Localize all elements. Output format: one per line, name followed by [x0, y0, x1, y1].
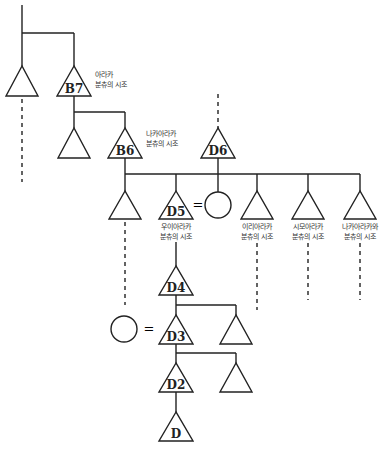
b7-annotation-2: 분츄의 시조 — [95, 80, 128, 89]
male-triangle-left — [6, 66, 38, 96]
male-triangle-iri — [241, 191, 273, 219]
b6-annotation-2: 분츄의 시조 — [146, 139, 179, 148]
iri-annotation-1: 이리아라카 — [242, 222, 273, 231]
sibship-lines — [125, 158, 360, 192]
d2-label: D2 — [167, 378, 186, 392]
male-triangle-d3-child — [220, 363, 252, 392]
node-d2: D2 — [159, 363, 193, 392]
d5-annotation-2: 분츄의 시조 — [160, 232, 193, 241]
male-triangle-d4-child — [220, 315, 252, 344]
d5-label: D5 — [167, 205, 186, 219]
male-triangle-shimo — [292, 191, 324, 219]
node-iri-arakawa: 이리아라카 분츄의 시조 — [241, 191, 274, 310]
d5-annotation-1: 우이아라카 — [161, 222, 192, 231]
male-triangle-b6-child — [109, 191, 141, 219]
node-naka-arakawa: 나카아라카와 분츄의 시조 — [342, 191, 379, 300]
d3-children-lines — [176, 344, 236, 363]
female-circle-d3-spouse — [111, 316, 137, 342]
node-d5: D5 우이아라카 분츄의 시조 — [159, 191, 193, 241]
d4-children-lines — [176, 295, 236, 315]
b6-annotation-1: 나카아라카 — [146, 129, 177, 138]
d4-label: D4 — [167, 281, 186, 295]
shimo-annotation-1: 시모아라카 — [293, 222, 324, 231]
marriage-symbol-d3: = — [144, 321, 155, 336]
female-circle-d5-spouse — [205, 192, 231, 218]
node-d6: D6 — [201, 128, 235, 158]
b7-children-lines — [74, 96, 125, 128]
male-triangle-nakawa — [344, 191, 376, 219]
kinship-diagram: B7 아라카 분츄의 시조 B6 나카아라카 분츄의 시조 D6 — [0, 0, 385, 453]
node-b7: B7 아라카 분츄의 시조 — [57, 66, 128, 96]
top-lineage — [22, 5, 74, 66]
d6-label: D6 — [209, 144, 228, 158]
node-d4: D4 — [159, 266, 193, 295]
marriage-symbol-d5: = — [193, 197, 204, 212]
b7-annotation-1: 아라카 — [95, 70, 114, 79]
d3-label: D3 — [167, 330, 186, 344]
nakawa-annotation-2: 분츄의 시조 — [344, 232, 377, 241]
nakawa-annotation-1: 나카아라카와 — [342, 222, 379, 231]
d-label: D — [171, 427, 181, 441]
male-triangle-b7-child — [58, 128, 90, 158]
b6-label: B6 — [116, 144, 135, 158]
b7-label: B7 — [65, 82, 84, 96]
node-shimo-arakawa: 시모아라카 분츄의 시조 — [292, 191, 325, 300]
node-d: D — [159, 412, 193, 441]
iri-annotation-2: 분츄의 시조 — [241, 232, 274, 241]
shimo-annotation-2: 분츄의 시조 — [292, 232, 325, 241]
node-b6: B6 나카아라카 분츄의 시조 — [108, 128, 179, 158]
node-d3: D3 — [159, 315, 193, 344]
